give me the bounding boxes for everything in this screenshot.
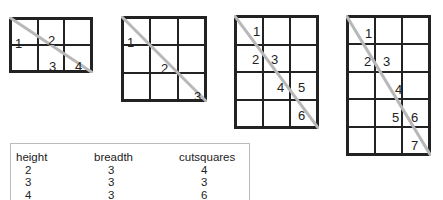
cut-square-number: 4: [277, 81, 284, 94]
grid-4x3: 123456: [234, 15, 319, 129]
cut-square-number: 4: [395, 83, 402, 96]
cut-square-number: 3: [383, 55, 390, 68]
cell-cutsquares: 3: [201, 177, 207, 189]
cut-square-number: 3: [49, 60, 56, 73]
grid-cell: [402, 72, 429, 99]
cell-breadth: 3: [108, 177, 114, 189]
cell-cutsquares: 6: [201, 190, 207, 200]
cut-square-number: 2: [48, 34, 55, 47]
cell-height: 3: [25, 177, 31, 189]
grid-cell: [178, 18, 205, 45]
grid-cell: [64, 19, 91, 45]
cut-square-number: 6: [411, 111, 418, 124]
cell-breadth: 3: [108, 190, 114, 200]
cut-square-number: 6: [298, 109, 305, 122]
grid-cell: [348, 99, 375, 126]
cut-square-number: 1: [127, 36, 134, 49]
header-breadth: breadth: [94, 152, 133, 164]
cut-square-number: 2: [252, 53, 259, 66]
grid-cell: [263, 100, 290, 128]
grid-cell: [123, 73, 150, 100]
cut-square-number: 3: [271, 53, 278, 66]
grid-cell: [375, 127, 402, 154]
cell-cutsquares: 4: [201, 165, 207, 177]
header-cutsquares: cutsquares: [179, 152, 235, 164]
cut-square-number: 5: [392, 111, 399, 124]
cut-square-number: 1: [365, 27, 372, 40]
cut-square-number: 2: [161, 62, 168, 75]
grid-cell: [236, 72, 263, 100]
cut-square-number: 1: [253, 25, 260, 38]
header-height: height: [16, 152, 47, 164]
grid-cell: [150, 18, 177, 45]
cell-height: 4: [25, 190, 31, 200]
grid-cell: [402, 44, 429, 71]
cut-square-number: 1: [15, 37, 22, 50]
grid-cell: [348, 127, 375, 154]
grid-cell: [402, 17, 429, 44]
grid-cell: [178, 45, 205, 72]
grid-3x3: 123: [121, 16, 207, 102]
grid-5x3: 1234567: [346, 15, 431, 156]
cut-square-number: 2: [364, 55, 371, 68]
grid-cell: [290, 17, 317, 45]
cut-square-number: 3: [194, 90, 201, 103]
grid-cell: [348, 72, 375, 99]
grid-cell: [263, 17, 290, 45]
cell-breadth: 3: [108, 165, 114, 177]
grid-cell: [290, 45, 317, 73]
cut-square-number: 7: [411, 139, 418, 152]
cell-height: 2: [25, 165, 31, 177]
cut-square-number: 4: [75, 60, 82, 73]
grid-2x3: 1234: [9, 17, 93, 73]
grid-cell: [236, 100, 263, 128]
grid-cell: [150, 73, 177, 100]
grid-cell: [375, 17, 402, 44]
results-table: height breadth cutsquares 2 3 4 3 3 3 4 …: [10, 143, 250, 200]
cut-square-number: 5: [298, 81, 305, 94]
